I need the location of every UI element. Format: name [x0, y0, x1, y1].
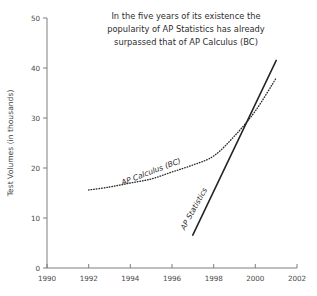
line-chart: In the five years of its existence the p…	[0, 0, 317, 296]
x-tick-label-1998: 1998	[205, 274, 223, 283]
x-tick-label-1992: 1992	[80, 274, 98, 283]
series-group	[89, 61, 277, 236]
x-axis: 1990 1992 1994 1996 1998 2000 2002	[38, 264, 306, 283]
annotation-line-2: popularity of AP Statistics has already	[107, 24, 265, 34]
y-tick-label-0: 0	[36, 264, 41, 273]
annotation-line-1: In the five years of its existence the	[111, 11, 260, 21]
y-tick-label-20: 20	[31, 164, 40, 173]
x-tick-label-1990: 1990	[38, 274, 56, 283]
x-tick-label-1996: 1996	[163, 274, 181, 283]
y-tick-label-50: 50	[31, 14, 40, 23]
x-tick-label-1994: 1994	[121, 274, 139, 283]
annotation-line-3: surpassed that of AP Calculus (BC)	[114, 37, 258, 47]
y-axis: 0 10 20 30 40 50 Test Volumes (in thousa…	[6, 14, 47, 273]
y-axis-title: Test Volumes (in thousands)	[6, 90, 15, 198]
x-tick-label-2002: 2002	[288, 274, 306, 283]
y-tick-label-10: 10	[31, 214, 40, 223]
series-line-ap-calculus-bc	[89, 78, 277, 190]
x-tick-label-2000: 2000	[246, 274, 264, 283]
y-tick-label-40: 40	[31, 64, 40, 73]
series-line-ap-statistics	[193, 61, 276, 236]
chart-annotation: In the five years of its existence the p…	[107, 11, 265, 47]
series-labels: AP Calculus (BC) AP Statistics	[119, 156, 209, 232]
y-tick-label-30: 30	[31, 114, 40, 123]
chart-container: In the five years of its existence the p…	[0, 0, 317, 296]
